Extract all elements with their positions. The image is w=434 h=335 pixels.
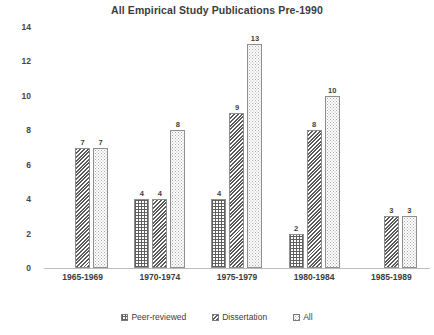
- legend-label: All: [303, 312, 312, 322]
- y-axis: 14 12 10 8 6 4 2 0: [0, 27, 40, 268]
- x-tick-1980-1984: 1980-1984: [294, 272, 335, 282]
- x-axis: 1965-1969 1970-1974 1975-1979 1980-1984 …: [44, 272, 430, 290]
- bar-dissertation-1970-1974[interactable]: 4: [152, 199, 167, 268]
- bar-dissertation-1980-1984[interactable]: 8: [307, 130, 322, 268]
- bar-value-label: 4: [217, 189, 221, 198]
- x-tick-1985-1989: 1985-1989: [371, 272, 412, 282]
- bar-dissertation-1965-1969[interactable]: 7: [75, 148, 90, 269]
- bar-dissertation-1985-1989[interactable]: 3: [384, 216, 399, 268]
- bar-peer-reviewed-1975-1979[interactable]: 4: [211, 199, 226, 268]
- y-tick-6: 6: [26, 160, 31, 170]
- x-tick-1970-1974: 1970-1974: [139, 272, 180, 282]
- bar-group-1975-1979: 4 9 13: [198, 27, 275, 268]
- bar-group-1965-1969: 7 7: [44, 27, 121, 268]
- bar-value-label: 10: [328, 86, 336, 95]
- bar-value-label: 13: [251, 34, 259, 43]
- bar-slot-peer-reviewed: [57, 27, 72, 268]
- legend-swatch-diagonal-icon: [212, 314, 219, 321]
- legend-item-all[interactable]: All: [293, 312, 312, 322]
- bar-value-label: 3: [389, 206, 393, 215]
- legend-item-dissertation[interactable]: Dissertation: [212, 312, 267, 322]
- legend-label: Dissertation: [222, 312, 267, 322]
- bar-all-1970-1974[interactable]: 8: [170, 130, 185, 268]
- y-tick-10: 10: [22, 91, 31, 101]
- bar-all-1985-1989[interactable]: 3: [402, 216, 417, 268]
- bar-dissertation-1975-1979[interactable]: 9: [229, 113, 244, 268]
- bar-value-label: 7: [99, 138, 103, 147]
- bar-slot-dissertation: 3: [384, 27, 399, 268]
- bar-chart: All Empirical Study Publications Pre-199…: [0, 0, 434, 335]
- bar-slot-peer-reviewed: 4: [134, 27, 149, 268]
- chart-legend: Peer-reviewed Dissertation All: [0, 312, 434, 322]
- bar-group-1970-1974: 4 4 8: [121, 27, 198, 268]
- bar-value-label: 8: [312, 120, 316, 129]
- bar-group-1980-1984: 2 8 10: [276, 27, 353, 268]
- y-tick-8: 8: [26, 125, 31, 135]
- x-tick-1975-1979: 1975-1979: [217, 272, 258, 282]
- bar-slot-dissertation: 8: [307, 27, 322, 268]
- bar-value-label: 7: [81, 138, 85, 147]
- bar-group-1985-1989: 3 3: [353, 27, 430, 268]
- bar-value-label: 4: [140, 189, 144, 198]
- x-tick-1965-1969: 1965-1969: [62, 272, 103, 282]
- bar-value-label: 3: [407, 206, 411, 215]
- y-tick-4: 4: [26, 194, 31, 204]
- legend-label: Peer-reviewed: [131, 312, 186, 322]
- bar-slot-all: 13: [247, 27, 262, 268]
- bar-all-1975-1979[interactable]: 13: [247, 44, 262, 268]
- bar-all-1965-1969[interactable]: 7: [93, 148, 108, 269]
- bar-slot-all: 10: [325, 27, 340, 268]
- legend-swatch-dotted-icon: [293, 314, 300, 321]
- bar-value-label: 9: [235, 103, 239, 112]
- x-axis-line: [44, 268, 430, 269]
- bar-slot-dissertation: 7: [75, 27, 90, 268]
- plot-area: 7 7 4 4: [44, 27, 430, 268]
- y-tick-0: 0: [26, 263, 31, 273]
- y-tick-14: 14: [22, 22, 31, 32]
- bar-value-label: 2: [294, 224, 298, 233]
- bar-slot-dissertation: 4: [152, 27, 167, 268]
- bar-value-label: 4: [158, 189, 162, 198]
- legend-item-peer-reviewed[interactable]: Peer-reviewed: [121, 312, 186, 322]
- bar-value-label: 8: [176, 120, 180, 129]
- bar-slot-peer-reviewed: 2: [289, 27, 304, 268]
- bar-peer-reviewed-1980-1984[interactable]: 2: [289, 234, 304, 268]
- y-tick-2: 2: [26, 229, 31, 239]
- bar-slot-peer-reviewed: 4: [211, 27, 226, 268]
- bar-all-1980-1984[interactable]: 10: [325, 96, 340, 268]
- bar-slot-all: 3: [402, 27, 417, 268]
- chart-title: All Empirical Study Publications Pre-199…: [0, 4, 434, 16]
- bar-slot-dissertation: 9: [229, 27, 244, 268]
- bar-slot-all: 7: [93, 27, 108, 268]
- bar-slot-all: 8: [170, 27, 185, 268]
- y-tick-12: 12: [22, 56, 31, 66]
- legend-swatch-grid-icon: [121, 314, 128, 321]
- bar-peer-reviewed-1970-1974[interactable]: 4: [134, 199, 149, 268]
- bar-slot-peer-reviewed: [366, 27, 381, 268]
